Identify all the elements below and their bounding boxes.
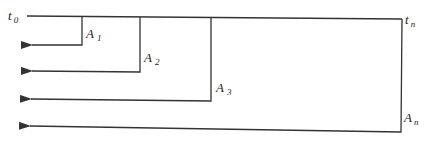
start-time-label: t0: [8, 8, 19, 25]
branch-a1: A1: [32, 17, 101, 45]
branch-a3: A3: [31, 18, 232, 101]
branch-an-label: An: [403, 110, 419, 127]
branch-a1-label: A1: [85, 26, 101, 43]
timeline-diagram: t0 tn A1 A2 A3 An: [0, 0, 430, 143]
branch-a3-label: A3: [215, 80, 232, 97]
branch-a2-label: A2: [143, 50, 160, 67]
time-axis-line: [27, 16, 402, 19]
branch-a3-path: [31, 18, 211, 101]
end-time-label: tn: [405, 12, 416, 29]
branch-a1-path: [32, 17, 82, 45]
